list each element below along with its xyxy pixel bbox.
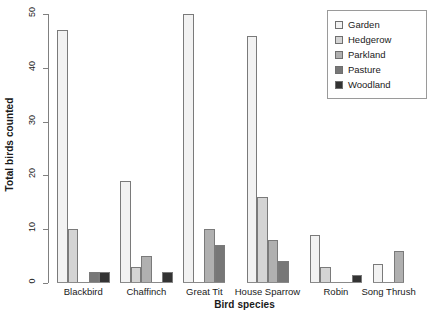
legend-item-label: Woodland [348, 79, 391, 90]
x-axis-title: Bird species [55, 299, 434, 310]
y-axis-tick-label: 10 [24, 222, 40, 232]
bar-chart: Total birds counted 01020304050 Blackbir… [0, 0, 434, 320]
bar [141, 256, 152, 283]
y-axis-tick [43, 14, 48, 15]
legend-item-label: Hedgerow [348, 34, 391, 45]
legend-item: Woodland [335, 77, 419, 92]
legend-item: Pasture [335, 62, 419, 77]
y-axis-title-text: Total birds counted [5, 97, 16, 191]
bar [57, 30, 68, 283]
bar-group-baseline [310, 282, 363, 283]
bar [204, 229, 215, 283]
legend: GardenHedgerowParklandPastureWoodland [327, 10, 427, 99]
bar [120, 181, 131, 283]
y-axis-tick [43, 122, 48, 123]
y-axis-tick [43, 68, 48, 69]
legend-item-label: Pasture [348, 64, 381, 75]
bar [268, 240, 279, 283]
y-axis-tick [43, 283, 48, 284]
legend-item: Hedgerow [335, 32, 419, 47]
bar [131, 267, 142, 283]
bar [215, 245, 226, 283]
legend-item-label: Garden [348, 19, 380, 30]
legend-item: Garden [335, 17, 419, 32]
bar-group-baseline [373, 282, 405, 283]
y-axis-tick-label: 40 [24, 61, 40, 71]
bar-group [183, 14, 236, 283]
bar [373, 264, 384, 283]
legend-swatch-icon [335, 81, 343, 89]
bar [394, 251, 405, 283]
bar-group [120, 14, 173, 283]
bar-group [247, 14, 300, 283]
bar [68, 229, 79, 283]
bar-group-baseline [183, 282, 225, 283]
bar-group [57, 14, 110, 283]
bar [310, 235, 321, 283]
y-axis-line [48, 14, 49, 283]
legend-swatch-icon [335, 51, 343, 59]
legend-item: Parkland [335, 47, 419, 62]
y-axis-title: Total birds counted [0, 0, 20, 288]
y-axis-tick-label: 20 [24, 168, 40, 178]
bar [278, 261, 289, 283]
legend-swatch-icon [335, 66, 343, 74]
bar [257, 197, 268, 283]
legend-swatch-icon [335, 36, 343, 44]
y-axis-tick-label: 30 [24, 115, 40, 125]
y-axis-tick-label: 0 [24, 276, 40, 286]
y-axis-tick [43, 229, 48, 230]
x-axis-category-label: Song Thrush [329, 286, 434, 297]
bar-group-baseline [57, 282, 110, 283]
bar [183, 14, 194, 283]
legend-swatch-icon [335, 21, 343, 29]
bar-group-baseline [120, 282, 173, 283]
bar [320, 267, 331, 283]
bar [247, 36, 258, 283]
y-axis-tick-label: 50 [24, 7, 40, 17]
y-axis-tick [43, 175, 48, 176]
bar-group-baseline [247, 282, 289, 283]
legend-item-label: Parkland [348, 49, 386, 60]
